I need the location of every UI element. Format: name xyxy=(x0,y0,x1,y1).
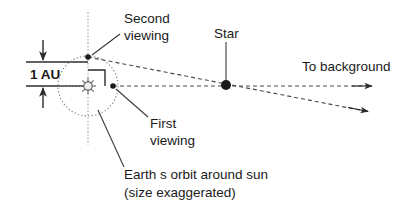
to-background-label: To background xyxy=(302,59,391,74)
parallax-diagram-canvas: 1 AU xyxy=(0,0,407,211)
star-dot xyxy=(221,80,231,90)
first-viewing-label-line2: viewing xyxy=(150,133,195,148)
second-viewing-label-line1: Second xyxy=(124,11,170,26)
au-baseline-group: 1 AU xyxy=(26,40,88,108)
second-viewing-position-dot xyxy=(85,54,91,60)
leader-second-viewing xyxy=(92,34,120,55)
au-label: 1 AU xyxy=(30,67,60,82)
first-viewing-position-dot xyxy=(110,83,116,89)
sun-symbol xyxy=(80,78,96,94)
first-viewing-label-line1: First xyxy=(150,116,176,131)
leader-orbit-caption xyxy=(98,110,124,167)
star-label: Star xyxy=(214,26,239,41)
arrowhead-to-background-lower xyxy=(348,108,368,112)
leader-first-viewing xyxy=(116,89,148,117)
parallax-diagram-root: 1 AU xyxy=(0,0,407,211)
second-viewing-label-line2: viewing xyxy=(124,28,169,43)
orbit-caption-line2: (size exaggerated) xyxy=(124,185,236,200)
orbit-caption-line1: Earth s orbit around sun xyxy=(124,167,268,182)
